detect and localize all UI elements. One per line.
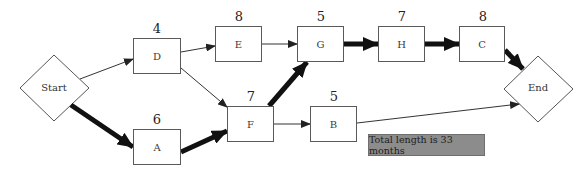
activity-c: C (459, 26, 505, 62)
total-length-box: Total length is 33 months (368, 134, 485, 156)
activity-d-label: D (153, 51, 161, 62)
duration-e: 8 (215, 9, 263, 24)
activity-d: D (133, 38, 181, 74)
end-label: End (508, 82, 568, 93)
activity-c-label: C (478, 39, 486, 50)
activity-h: H (378, 26, 425, 62)
duration-c: 8 (459, 9, 507, 24)
activity-e: E (215, 26, 262, 62)
activity-g-label: G (317, 39, 325, 50)
duration-h: 7 (378, 9, 426, 24)
activity-b-label: B (330, 119, 337, 130)
activity-b: B (310, 106, 357, 142)
edge-a-f (181, 131, 227, 152)
duration-f: 7 (227, 89, 275, 104)
duration-g: 5 (297, 9, 345, 24)
duration-a: 6 (133, 112, 181, 127)
edge-start-a (71, 105, 133, 147)
activity-g: G (297, 26, 344, 62)
activity-h-label: H (397, 39, 406, 50)
duration-d: 4 (133, 21, 181, 36)
activity-a: A (133, 129, 181, 165)
activity-a-label: A (153, 142, 160, 153)
duration-b: 5 (310, 89, 358, 104)
edge-start-d (80, 59, 133, 79)
activity-f-label: F (247, 119, 254, 130)
edge-d-e (181, 46, 215, 52)
activity-f: F (227, 106, 274, 142)
edge-d-f (181, 68, 227, 107)
start-label: Start (24, 82, 84, 93)
total-length-label: Total length is 33 months (369, 134, 484, 156)
activity-e-label: E (235, 39, 242, 50)
edge-b-end (357, 104, 519, 123)
edge-c-end (505, 50, 523, 69)
